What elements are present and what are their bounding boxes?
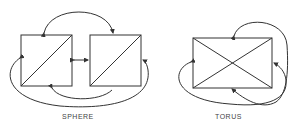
- torus-diagram: [179, 22, 288, 105]
- sphere-diagram: [10, 12, 148, 107]
- sphere-label: SPHERE: [62, 113, 94, 120]
- sphere-outer-loop: [10, 58, 148, 107]
- sphere-right-diagonal: [90, 35, 141, 86]
- sphere-top-arc: [44, 12, 113, 33]
- sphere-bottom-arc: [52, 88, 112, 99]
- torus-left-loop: [179, 62, 286, 105]
- torus-top-arc: [232, 22, 288, 105]
- identification-diagram: [0, 0, 301, 133]
- sphere-left-diagonal: [21, 35, 72, 86]
- torus-label: TORUS: [215, 113, 242, 120]
